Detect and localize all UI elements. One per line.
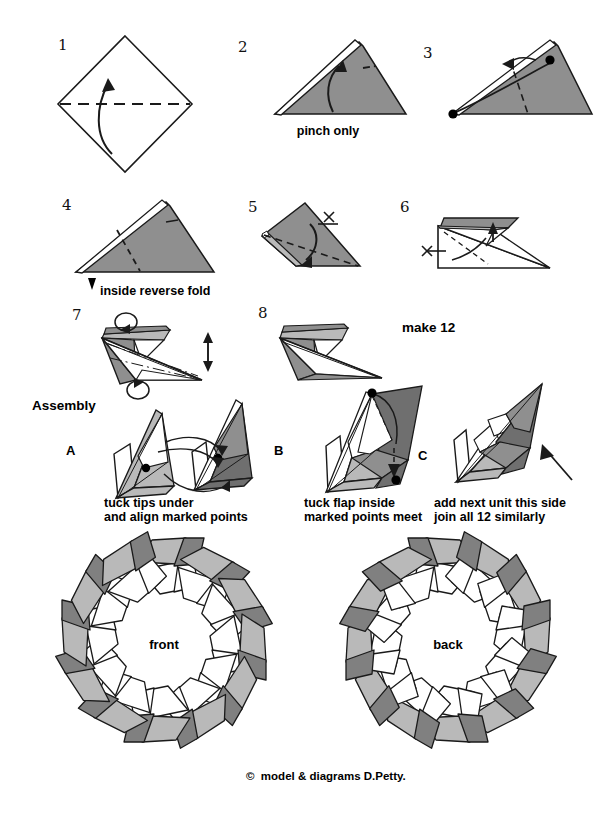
assembly-letter-a: A	[66, 443, 75, 458]
caption-assembly-c: add next unit this side join all 12 simi…	[434, 496, 566, 524]
figure-step-3	[440, 36, 600, 126]
step-number-6: 6	[400, 200, 410, 215]
step-number-8: 8	[258, 306, 268, 321]
step-number-5: 5	[248, 200, 258, 215]
straight-pointer-arrow	[540, 444, 572, 480]
figure-assembly-c	[434, 384, 594, 494]
figure-step-6	[420, 198, 580, 278]
double-headed-arrow	[203, 332, 213, 372]
marked-point-dot	[391, 475, 400, 484]
ring-label-back: back	[408, 637, 488, 652]
figure-step-5	[258, 198, 368, 278]
marked-point-dot	[448, 109, 457, 118]
step-number-3: 3	[423, 46, 433, 61]
figure-step-7	[90, 310, 250, 400]
caption-step-4: inside reverse fold	[100, 284, 210, 298]
marked-point-dot	[545, 55, 554, 64]
caption-step-2: pinch only	[258, 124, 398, 138]
figure-step-8	[270, 318, 420, 388]
assembly-letter-c: C	[418, 448, 427, 463]
caption-assembly-b: tuck flap inside marked points meet	[304, 496, 422, 524]
assembly-letter-b: B	[274, 443, 283, 458]
diagram-page: 1 2 pinch only 3 4	[0, 0, 602, 819]
marked-point-dot	[367, 388, 376, 397]
marked-point-dot	[142, 464, 150, 472]
label-assembly: Assembly	[32, 398, 96, 413]
push-in-arrowhead	[88, 278, 96, 290]
figure-assembly-b	[296, 386, 436, 498]
figure-step-1	[50, 28, 200, 178]
caption-assembly-a: tuck tips under and align marked points	[104, 496, 248, 524]
label-make-12: make 12	[402, 320, 455, 335]
copyright-notice: © model & diagrams D.Petty.	[246, 770, 406, 782]
figure-step-4	[62, 196, 232, 286]
ring-label-front: front	[124, 637, 204, 652]
figure-step-2	[255, 36, 420, 126]
step-number-2: 2	[238, 40, 248, 55]
figure-assembly-a	[88, 390, 288, 500]
step-number-7: 7	[72, 308, 82, 323]
